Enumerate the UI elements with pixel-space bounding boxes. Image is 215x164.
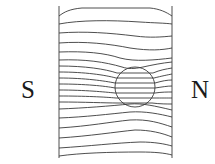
magnetic-field-diagram: S N — [0, 0, 215, 164]
south-pole-label: S — [21, 77, 35, 102]
north-pole-label: N — [191, 77, 209, 102]
